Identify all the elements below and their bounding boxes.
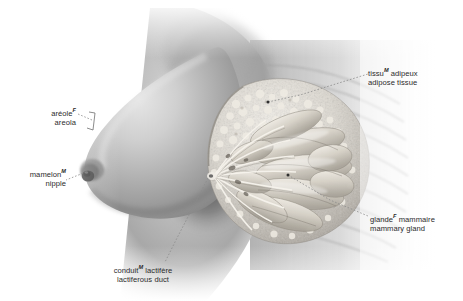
label-adipose-tissue-fr: tissuM adipeux [368, 66, 418, 78]
areola-bracket [87, 112, 95, 130]
anchor-mammary-gland [287, 174, 290, 177]
leader-nipple [66, 172, 86, 180]
leader-areola [78, 114, 92, 120]
label-mammary-gland: glandeF mammaire mammary gland [370, 212, 435, 233]
label-lactiferous-duct-en: lactiferous duct [95, 275, 191, 284]
figure-canvas: tissuM adipeux adipose tissue glandeF ma… [0, 0, 463, 301]
leader-mammary-gland [288, 175, 368, 216]
leader-lines-layer [0, 0, 463, 301]
label-lactiferous-duct: conduitM lactifère lactiferous duct [95, 263, 191, 284]
label-nipple-en: nipple [0, 179, 66, 188]
leader-lactiferous-duct [165, 178, 208, 262]
label-mammary-gland-fr: glandeF mammaire [370, 212, 435, 224]
label-mammary-gland-en: mammary gland [370, 224, 435, 233]
label-nipple: mamelonM nipple [0, 167, 66, 188]
label-lactiferous-duct-fr: conduitM lactifère [95, 263, 191, 275]
label-areola: aréoleF areola [0, 106, 76, 127]
label-adipose-tissue-en: adipose tissue [368, 78, 418, 87]
label-adipose-tissue: tissuM adipeux adipose tissue [368, 66, 418, 87]
label-areola-en: areola [0, 118, 76, 127]
label-nipple-fr: mamelonM [0, 167, 66, 179]
leader-adipose-tissue [268, 74, 368, 102]
anchor-adipose-tissue [267, 101, 270, 104]
label-areola-fr: aréoleF [0, 106, 76, 118]
